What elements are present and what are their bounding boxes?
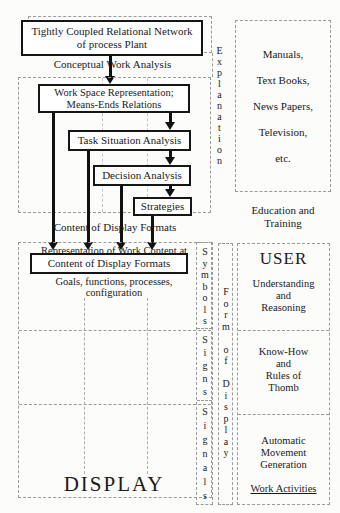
work-space-box: Work Space Representation; Means-Ends Re… [38,84,190,113]
explanation-vertical-label: Explanation [214,45,224,167]
overlapped-text-line3: configuration [21,287,207,299]
work-space-box-line2: Means-Ends Relations [67,99,162,111]
media-item-news-papers: News Papers, [236,93,330,119]
explanation-column-edge [212,53,213,77]
display-grid-vline1 [84,298,85,474]
user-section-automatic: Automatic Movement Generation Work Activ… [238,415,329,504]
symbol-levels-column: Symbols Signs Signals [196,242,213,505]
user-s1-line1: Understanding [238,278,329,290]
education-training-line1: Education and [237,204,329,217]
content-of-display-formats-box: Content of Display Formats [30,253,188,274]
user-s1-line3: Reasoning [238,302,329,314]
user-box: USER Understanding and Reasoning Know-Ho… [237,243,330,505]
form-of-display-column: Form of Display [218,243,233,505]
arrow-decision-to-strategies-head [165,189,175,197]
label-conceptual-work-analysis: Conceptual Work Analysis [30,58,195,71]
label-content-of-display-formats: Content of Display Formats [40,221,190,234]
user-s1-line2: and [238,290,329,302]
strategies-box: Strategies [133,197,192,216]
diagram-canvas: Tightly Coupled Relational Network of pr… [0,0,340,513]
user-title: USER [238,249,329,269]
arrow-drop3-line [120,186,123,243]
media-box: Manuals, Text Books, News Papers, Televi… [235,20,331,192]
decision-analysis-box: Decision Analysis [93,165,191,186]
content-of-display-formats-box-label: Content of Display Formats [48,257,171,270]
user-section-know-how: Know-How and Rules of Thomb [238,330,329,415]
education-training-label: Education and Training [237,204,329,230]
decision-analysis-box-label: Decision Analysis [102,169,182,182]
user-s3-line3: Generation [238,459,329,471]
task-situation-box-label: Task Situation Analysis [78,134,182,147]
user-s2-line4: Thomb [238,382,329,394]
task-situation-box: Task Situation Analysis [68,130,191,151]
process-plant-box-line1: Tightly Coupled Relational Network [31,25,192,38]
strategies-box-label: Strategies [141,200,184,213]
arrow-task-to-decision-head [165,157,175,165]
process-plant-box-line2: of process Plant [77,38,147,51]
display-title: DISPLAY [39,472,189,497]
media-item-etc: etc. [236,145,330,171]
media-item-text-books: Text Books, [236,67,330,93]
user-s2-line1: Know-How [238,346,329,358]
media-item-manuals: Manuals, [236,41,330,67]
arrow-ws-to-task-head [165,122,175,130]
display-grid-hline2 [19,404,211,405]
user-s3-line2: Movement [238,447,329,459]
display-grid-hline1 [19,330,211,331]
user-section-understanding: USER Understanding and Reasoning [238,244,329,330]
user-s2-line3: Rules of [238,370,329,382]
form-of-display-vertical-label: Form of Display [221,244,231,504]
signs-vertical-label: Signs [200,329,210,400]
display-grid-vline2 [147,298,148,474]
media-item-television: Television, [236,119,330,145]
symbols-vertical-label: Symbols [200,243,210,328]
education-training-line2: Training [237,217,329,230]
process-plant-box: Tightly Coupled Relational Network of pr… [21,20,203,56]
work-space-box-line1: Work Space Representation; [54,87,173,99]
work-activities-label: Work Activities [238,483,329,495]
signals-vertical-label: Signals [200,401,210,504]
user-s3-line1: Automatic [238,435,329,447]
display-box: Representation of Work Content at Goals,… [18,242,212,498]
user-s2-line2: and [238,358,329,370]
